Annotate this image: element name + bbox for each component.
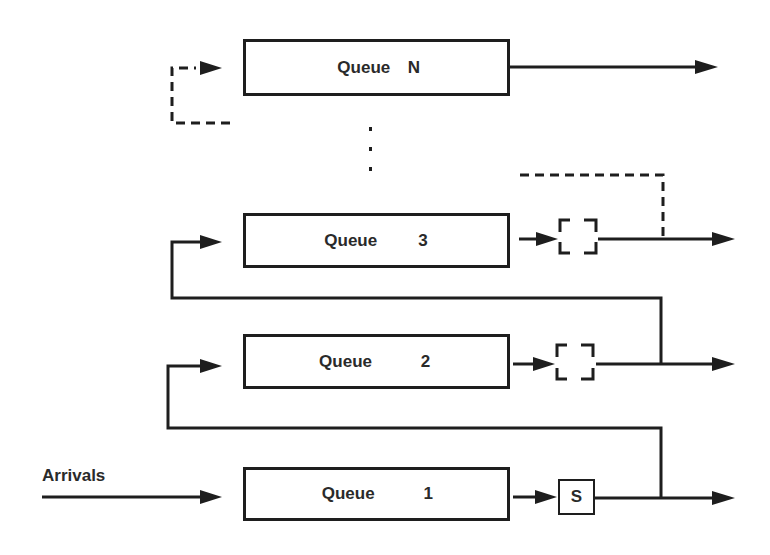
queue-n-feedback-dashed [172,61,230,123]
queue-n-output [509,60,718,74]
queue-1-box: Queue 1 [243,467,510,521]
arrivals-label: Arrivals [42,466,105,486]
queue-index: 2 [421,352,430,372]
server-s-box: S [558,479,595,515]
arrow-icon [536,232,558,246]
queue-2-box: Queue 2 [243,334,510,389]
queue-label: Queue [322,484,375,504]
arrow-icon [712,491,735,505]
arrow-icon [200,61,222,75]
queue-1-output [513,490,735,505]
queue-index: N [408,58,420,78]
queue-label: Queue [319,352,372,372]
queue-n-dashed-merge [520,175,663,239]
arrow-icon [200,235,222,249]
queue-label: Queue [324,231,377,251]
arrivals-arrow [42,490,222,504]
ellipsis-dots [369,127,372,171]
queue-3-box: Queue 3 [243,213,510,268]
arrow-icon [200,490,222,504]
queue-2-output [513,345,735,379]
arrow-icon [712,232,735,246]
arrow-icon [712,357,735,371]
queue-2-dashed-server [557,345,593,379]
queue-n-box: Queue N [243,39,510,96]
arrow-icon [535,490,557,504]
queue-3-output [519,220,735,253]
queue-index: 3 [418,231,427,251]
arrow-icon [200,359,222,373]
arrow-icon [533,357,555,371]
arrow-icon [695,60,718,74]
queue-label: Queue [337,58,390,78]
queue-index: 1 [423,484,432,504]
queue-3-dashed-server [560,220,596,253]
